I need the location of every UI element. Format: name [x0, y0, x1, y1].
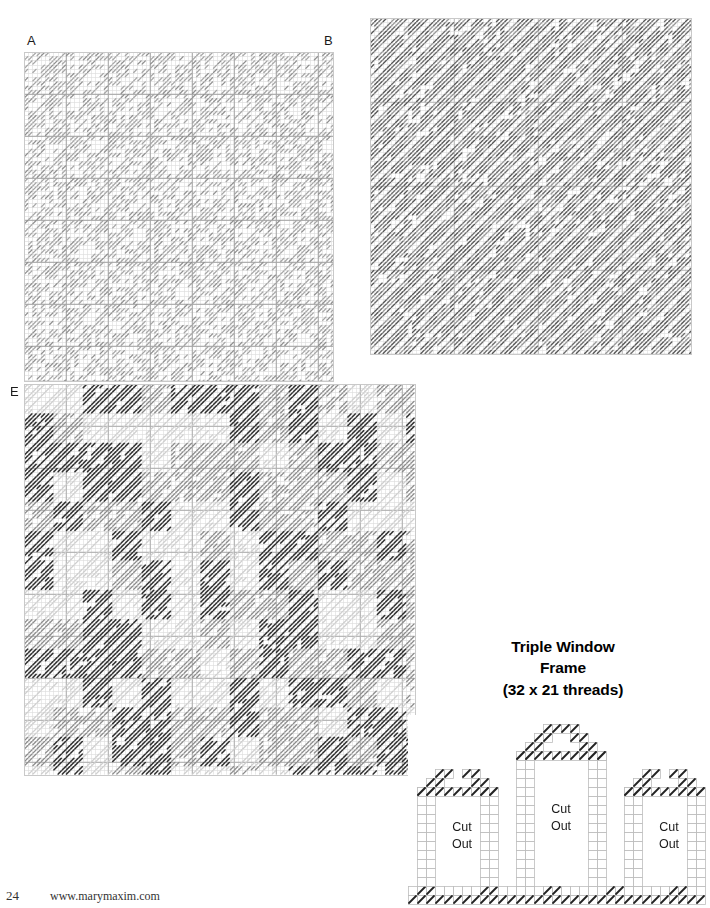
- chart-label-e: E: [10, 385, 19, 398]
- footer-website: www.marymaxim.com: [50, 889, 160, 904]
- cut-out-right-line2: Out: [634, 836, 704, 853]
- title-line-2: Frame: [448, 657, 678, 678]
- chart-a-b-canvas: [24, 52, 334, 382]
- footer-page-number: 24: [6, 888, 19, 904]
- cut-out-label-left: Cut Out: [427, 819, 497, 854]
- triple-window-frame-title: Triple Window Frame (32 x 21 threads): [448, 636, 678, 700]
- stitch-chart-e: [24, 384, 416, 776]
- pattern-page: A B E Triple Window Frame (32 x 21 threa…: [0, 0, 710, 908]
- cut-out-label-right: Cut Out: [634, 819, 704, 854]
- cut-out-left-line1: Cut: [427, 819, 497, 836]
- cut-out-center-line1: Cut: [526, 801, 596, 818]
- chart-label-b: B: [324, 34, 333, 47]
- chart-label-a: A: [27, 34, 36, 47]
- chart-e-canvas: [24, 384, 416, 776]
- chart-top-right-canvas: [370, 18, 692, 355]
- stitch-chart-a-b: [24, 52, 334, 382]
- cut-out-label-center: Cut Out: [526, 801, 596, 836]
- cut-out-right-line1: Cut: [634, 819, 704, 836]
- cut-out-center-line2: Out: [526, 818, 596, 835]
- stitch-chart-top-right: [370, 18, 692, 355]
- cut-out-left-line2: Out: [427, 836, 497, 853]
- title-line-1: Triple Window: [448, 636, 678, 657]
- title-line-3: (32 x 21 threads): [448, 679, 678, 700]
